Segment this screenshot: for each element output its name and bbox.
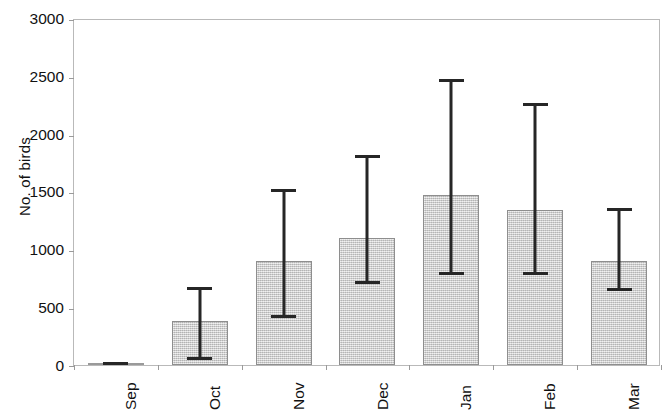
y-tick-label: 3000 <box>2 10 64 28</box>
y-tick-label: 500 <box>2 299 64 317</box>
y-axis-tick-labels: 3000 2500 2000 1500 1000 500 0 <box>0 0 64 414</box>
bar-group <box>158 20 242 365</box>
error-bar-cap-upper <box>271 189 296 192</box>
bar-group <box>493 20 577 365</box>
error-bar <box>282 189 285 319</box>
error-bar-cap-lower <box>355 281 380 284</box>
error-bar <box>534 103 537 275</box>
x-tick-label: Dec <box>374 382 392 410</box>
bar-chart: No. of birds 3000 2500 2000 1500 1000 50… <box>0 0 664 414</box>
error-bar-cap-lower <box>439 272 464 275</box>
y-tick-label: 2000 <box>2 126 64 144</box>
bar-group <box>326 20 410 365</box>
error-bar-cap-lower <box>607 288 632 291</box>
x-tick-label: Jan <box>457 385 475 410</box>
error-bar-cap-lower <box>187 357 212 360</box>
bar-group <box>242 20 326 365</box>
error-bar-cap-upper <box>355 155 380 158</box>
error-bar <box>114 362 117 365</box>
bar-group <box>577 20 661 365</box>
y-tick-label: 2500 <box>2 68 64 86</box>
bar-group <box>74 20 158 365</box>
x-tick-label: Mar <box>625 383 643 410</box>
bar-group <box>409 20 493 365</box>
plot-area <box>73 19 660 366</box>
error-bar-cap-lower <box>103 362 128 365</box>
x-axis-tick-labels: SepOctNovDecJanFebMar <box>73 366 660 414</box>
y-tick-label: 1500 <box>2 183 64 201</box>
error-bar <box>198 287 201 360</box>
error-bar-cap-lower <box>523 272 548 275</box>
error-bar-cap-lower <box>271 315 296 318</box>
error-bar <box>366 155 369 284</box>
x-tick-label: Sep <box>122 382 140 410</box>
y-tick-label: 0 <box>2 357 64 375</box>
error-bar <box>450 79 453 275</box>
x-tick-label: Feb <box>541 383 559 410</box>
x-tick-mark <box>661 365 662 370</box>
error-bar-cap-upper <box>439 79 464 82</box>
error-bar-cap-upper <box>523 103 548 106</box>
error-bar <box>618 208 621 291</box>
y-tick-label: 1000 <box>2 241 64 259</box>
x-tick-label: Nov <box>290 382 308 410</box>
x-tick-label: Oct <box>206 386 224 410</box>
error-bar-cap-upper <box>607 208 632 211</box>
error-bar-cap-upper <box>187 287 212 290</box>
